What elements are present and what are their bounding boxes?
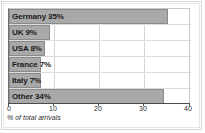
plot-area: Germany 35% UK 9% USA 8% France 7% Italy…	[8, 8, 190, 103]
x-axis-line	[8, 103, 190, 104]
bar-chart-figure: Germany 35% UK 9% USA 8% France 7% Italy…	[0, 0, 205, 133]
bar-label-usa: USA 8%	[12, 41, 42, 56]
bar-label-other: Other 34%	[12, 89, 51, 104]
x-axis-title: % of total arrivals	[7, 114, 61, 121]
x-tick-label-30: 30	[135, 105, 151, 112]
x-tick-label-0: 0	[1, 105, 17, 112]
x-tick-label-40: 40	[180, 105, 196, 112]
bar-label-france: France 7%	[12, 57, 51, 72]
x-tick-label-20: 20	[90, 105, 106, 112]
bar-label-uk: UK 9%	[12, 25, 37, 40]
bar-label-italy: Italy 7%	[12, 73, 41, 88]
bar-label-germany: Germany 35%	[12, 9, 64, 24]
x-tick-label-10: 10	[45, 105, 61, 112]
